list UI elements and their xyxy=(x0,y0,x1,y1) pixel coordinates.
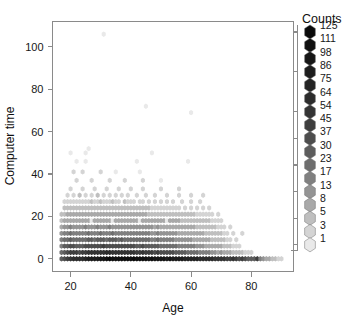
legend-label: 75 xyxy=(320,72,332,84)
legend-label: 5 xyxy=(320,205,326,217)
x-tick-label: 80 xyxy=(245,280,257,292)
hexbin-figure: 20406080 020406080100 Age Computer time … xyxy=(0,0,355,324)
legend-label: 30 xyxy=(320,139,332,151)
x-tick-label: 20 xyxy=(64,280,76,292)
x-tick-label: 60 xyxy=(185,280,197,292)
y-tick-label: 100 xyxy=(25,41,43,53)
legend-swatches xyxy=(305,25,316,252)
y-tick-label: 60 xyxy=(31,126,43,138)
legend-label: 13 xyxy=(320,179,332,191)
x-axis-title: Age xyxy=(162,301,184,315)
legend-label: 8 xyxy=(320,192,326,204)
hexbin-plot-svg: 20406080 020406080100 Age Computer time … xyxy=(0,0,355,324)
legend-label: 37 xyxy=(320,125,332,137)
legend-label: 98 xyxy=(320,46,332,58)
legend-label: 3 xyxy=(320,219,326,231)
legend-label: 1 xyxy=(320,232,326,244)
legend-label: 17 xyxy=(320,165,332,177)
legend-label: 54 xyxy=(320,99,332,111)
y-tick-label: 80 xyxy=(31,83,43,95)
figure-background xyxy=(0,0,355,324)
legend-label: 111 xyxy=(320,32,336,44)
legend-label: 64 xyxy=(320,86,332,98)
legend-label: 125 xyxy=(320,19,338,31)
legend-label: 23 xyxy=(320,152,332,164)
legend-label: 86 xyxy=(320,59,332,71)
y-axis-title: Computer time xyxy=(3,106,17,185)
y-tick-label: 0 xyxy=(37,253,43,265)
y-tick-label: 20 xyxy=(31,210,43,222)
x-tick-label: 40 xyxy=(125,280,137,292)
legend-label: 45 xyxy=(320,112,332,124)
y-tick-label: 40 xyxy=(31,168,43,180)
